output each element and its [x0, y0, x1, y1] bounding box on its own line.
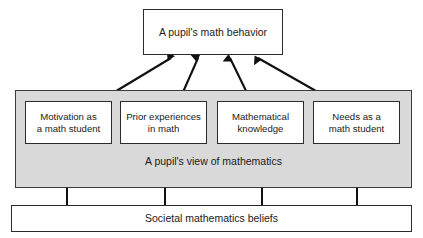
node-pupils-math-behavior[interactable]: A pupil's math behavior — [143, 9, 283, 55]
node-label-behavior: A pupil's math behavior — [156, 26, 270, 39]
band-label-pupils-view-of-mathematics: A pupil's view of mathematics — [15, 155, 412, 167]
diagram-canvas: A pupil's math behavior Motivation as a … — [0, 0, 423, 238]
node-societal-mathematics-beliefs[interactable]: Societal mathematics beliefs — [11, 205, 412, 232]
node-label-factor-1: Prior experiences in math — [123, 111, 204, 134]
node-mathematical-knowledge[interactable]: Mathematical knowledge — [217, 101, 304, 144]
node-motivation-as-a-math-student[interactable]: Motivation as a math student — [25, 101, 112, 144]
node-label-factor-2: Mathematical knowledge — [229, 111, 292, 134]
node-needs-as-a-math-student[interactable]: Needs as a math student — [313, 101, 400, 144]
node-label-societal: Societal mathematics beliefs — [142, 212, 281, 225]
node-prior-experiences-in-math[interactable]: Prior experiences in math — [120, 101, 207, 144]
node-label-factor-3: Needs as a math student — [326, 111, 387, 134]
node-label-factor-0: Motivation as a math student — [34, 111, 103, 134]
